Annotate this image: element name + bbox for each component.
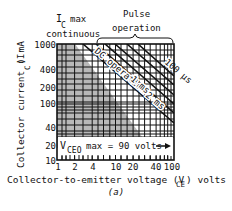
svg-text:max: max (70, 14, 87, 24)
svg-text:Pulse: Pulse (123, 9, 150, 19)
svg-text:20: 20 (128, 162, 139, 172)
figure-subtitle: (a) (108, 187, 124, 197)
svg-text:4: 4 (90, 162, 95, 172)
svg-text:2: 2 (72, 162, 77, 172)
svg-text:max = 90 volts: max = 90 volts (86, 141, 162, 151)
soa-chart: DC operation 1 ms 2 ms 100 µs V CEO max … (0, 0, 232, 211)
svg-text:CE: CE (176, 180, 186, 189)
svg-text:1: 1 (55, 162, 60, 172)
pulse-brace (97, 34, 173, 43)
svg-text:operation: operation (112, 23, 161, 33)
svg-text:40: 40 (151, 162, 162, 172)
svg-text:100: 100 (164, 162, 180, 172)
y-tick-labels: 1000 400 200 100 40 20 10 (34, 40, 56, 166)
svg-text:continuous: continuous (46, 29, 100, 39)
x-tick-labels: 1 2 4 10 20 40 100 (55, 162, 180, 172)
svg-text:Collector-to-emitter voltage (: Collector-to-emitter voltage (V (7, 174, 185, 185)
svg-text:20: 20 (45, 141, 56, 151)
svg-text:40: 40 (45, 123, 56, 133)
ic-max-annotation: I C max continuous (46, 13, 100, 39)
svg-text:10: 10 (111, 162, 122, 172)
svg-text:100: 100 (40, 99, 56, 109)
svg-text:400: 400 (40, 65, 56, 75)
svg-text:V: V (60, 140, 66, 151)
svg-text:200: 200 (40, 83, 56, 93)
svg-text:C: C (23, 65, 32, 70)
pulse-operation-annotation: Pulse operation (112, 9, 161, 33)
svg-text:) volts: ) volts (186, 174, 226, 185)
y-axis-label: Collector current (I C ) mA (15, 41, 32, 168)
svg-text:1000: 1000 (34, 40, 56, 50)
svg-text:) mA: ) mA (15, 41, 26, 64)
svg-text:CEO: CEO (67, 146, 82, 155)
